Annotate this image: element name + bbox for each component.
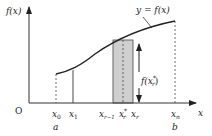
label-a: a	[53, 122, 58, 132]
tick-x1: x1	[69, 109, 78, 120]
curve-label-leader	[143, 17, 152, 28]
tick-xr-star: x*r	[119, 107, 127, 120]
tick-xr-minus-1: xr−1	[99, 109, 115, 120]
curve-label: y = f(x)	[135, 5, 170, 15]
height-label: f(x*r)	[140, 74, 158, 87]
label-b: b	[172, 122, 178, 132]
tick-xr: xr	[131, 109, 140, 120]
y-axis-label: f(x)	[5, 6, 22, 16]
origin-label: O	[15, 106, 22, 116]
x-axis-label: x	[198, 108, 203, 118]
riemann-diagram: f(x) y = f(x) O x x0 x1 xr−1 x*r xr xn a…	[0, 0, 212, 136]
tick-x0: x0	[52, 109, 61, 120]
tick-xn: xn	[171, 109, 180, 120]
